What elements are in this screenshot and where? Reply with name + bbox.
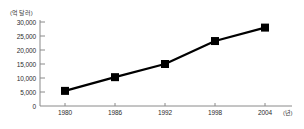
data-point-marker [161, 60, 169, 68]
plot-area [0, 0, 304, 129]
y-axis-ticks [40, 22, 45, 92]
data-point-marker [261, 24, 269, 32]
data-point-marker [61, 87, 69, 95]
data-point-marker [211, 37, 219, 45]
data-line [65, 28, 265, 91]
line-chart: (억 달러) (년) 30,000 25,000 20,000 15,000 1… [0, 0, 304, 129]
data-point-marker [111, 73, 119, 81]
